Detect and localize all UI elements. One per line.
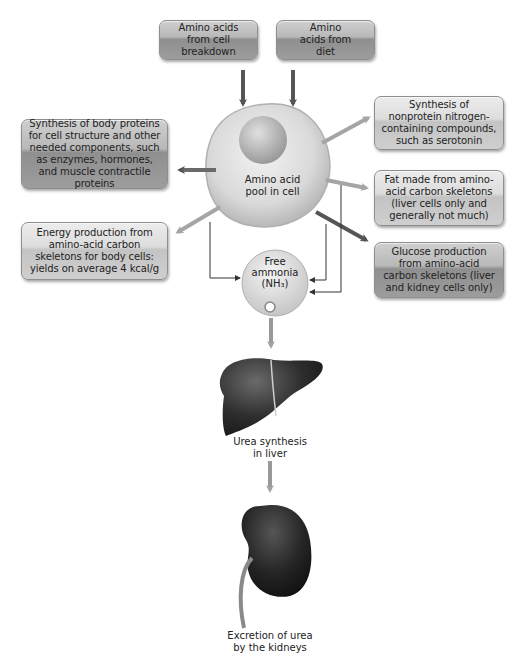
amino-acid-pool-label: Amino acid pool in cell <box>225 174 320 198</box>
box-synthesis-body-proteins: Synthesis of body proteins for cell stru… <box>21 119 168 189</box>
box-label: Fat made from amino-acid carbon skeleton… <box>381 174 497 222</box>
line-energy-to-ammonia <box>210 222 240 278</box>
line-glucose-to-ammonia <box>310 224 326 280</box>
box-label: Glucose production from amino-acid carbo… <box>381 246 497 294</box>
kidney-shape <box>242 505 312 597</box>
box-fat-from-amino-acids: Fat made from amino-acid carbon skeleton… <box>374 170 504 226</box>
box-label: Synthesis of body proteins for cell stru… <box>28 118 161 190</box>
box-synthesis-nonprotein-nitrogen: Synthesis of nonprotein nitrogen-contain… <box>374 96 504 150</box>
box-label: Synthesis of nonprotein nitrogen-contain… <box>381 99 497 147</box>
arrow-pool-to-nonprotein <box>322 118 368 143</box>
box-label: Amino acids from cell breakdown <box>166 22 251 58</box>
ammonia-molecule-icon <box>265 302 275 312</box>
arrow-pool-to-energy <box>178 207 220 232</box>
urea-excretion-label: Excretion of urea by the kidneys <box>215 630 325 654</box>
box-label: Energy production from amino-acid carbon… <box>28 227 161 275</box>
box-label: Amino acids from diet <box>283 22 368 58</box>
box-energy-production: Energy production from amino-acid carbon… <box>21 222 168 280</box>
cell-nucleus <box>239 116 287 164</box>
arrow-pool-to-fat <box>326 180 366 188</box>
urea-synthesis-label: Urea synthesis in liver <box>225 436 315 460</box>
box-glucose-production: Glucose production from amino-acid carbo… <box>374 242 504 298</box>
free-ammonia-label: Free ammonia (NH₃) <box>240 256 310 289</box>
box-amino-acids-cell-breakdown: Amino acids from cell breakdown <box>159 20 258 60</box>
box-amino-acids-diet: Amino acids from diet <box>276 20 375 60</box>
